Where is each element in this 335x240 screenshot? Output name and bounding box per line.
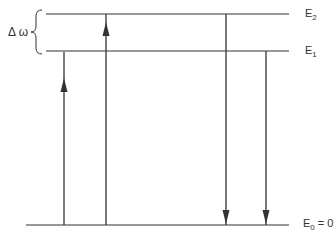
- delta-omega-bracket: [31, 10, 42, 54]
- energy-diagram: [0, 0, 335, 240]
- arrowhead-up-icon: [61, 78, 68, 92]
- level-label-e0: E0 = 0: [303, 217, 333, 232]
- level-label-e1: E1: [305, 44, 317, 59]
- arrowhead-down-icon: [263, 210, 270, 224]
- arrowhead-down-icon: [223, 210, 230, 224]
- arrowhead-up-icon: [103, 22, 110, 36]
- level-label-e2: E2: [305, 7, 317, 22]
- delta-omega-label: Δ ω: [8, 25, 28, 39]
